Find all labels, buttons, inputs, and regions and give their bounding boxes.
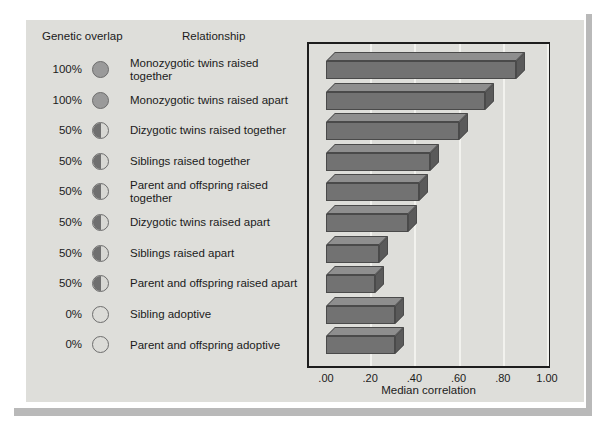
bar-top-face: [326, 205, 417, 214]
bar-top-face: [326, 297, 404, 306]
bar: [326, 297, 404, 324]
bar: [326, 266, 384, 293]
relationship-label: Dizygotic twins raised together: [130, 124, 300, 138]
bar-top-face: [326, 83, 494, 92]
overlap-circle-icon: [92, 92, 109, 109]
relationship-label: Monozygotic twins raised apart: [130, 94, 300, 108]
axis-top-line: [307, 42, 550, 44]
overlap-circle-icon: [92, 306, 109, 323]
figure-card: Genetic overlap Relationship 100%Monozyg…: [8, 6, 586, 408]
bar-front-face: [326, 92, 485, 110]
relationship-label: Parent and offspring raised together: [130, 179, 300, 206]
relationship-label: Dizygotic twins raised apart: [130, 216, 300, 230]
figure-stage: Genetic overlap Relationship 100%Monozyg…: [0, 0, 599, 422]
column-header-genetic-overlap: Genetic overlap: [42, 30, 123, 42]
figure-panel: Genetic overlap Relationship 100%Monozyg…: [26, 20, 584, 402]
axis-y-line: [307, 42, 309, 368]
bar: [326, 205, 417, 232]
genetic-overlap-value: 50%: [38, 247, 82, 259]
overlap-circle-icon: [92, 122, 109, 139]
genetic-overlap-value: 0%: [38, 338, 82, 350]
relationship-label: Monozygotic twins raised together: [130, 57, 300, 84]
overlap-circle-icon: [92, 275, 109, 292]
bar-front-face: [326, 306, 395, 324]
bar-front-face: [326, 275, 375, 293]
bar-top-face: [326, 327, 404, 336]
overlap-circle-icon: [92, 214, 109, 231]
bar: [326, 52, 525, 79]
overlap-circle-icon: [92, 336, 109, 353]
genetic-overlap-value: 50%: [38, 155, 82, 167]
axis-x-line: [307, 366, 550, 368]
column-header-relationship: Relationship: [182, 30, 245, 42]
bar-front-face: [326, 61, 516, 79]
genetic-overlap-value: 50%: [38, 185, 82, 197]
bar-front-face: [326, 183, 419, 201]
bar: [326, 236, 388, 263]
gridline: [547, 44, 549, 366]
bar-front-face: [326, 245, 379, 263]
bar: [326, 83, 494, 110]
bar-top-face: [326, 236, 388, 245]
gridline: [503, 44, 505, 366]
x-axis-label: Median correlation: [307, 384, 550, 396]
overlap-circle-icon: [92, 183, 109, 200]
x-tick-label: .60: [451, 372, 466, 384]
relationship-label: Parent and offspring adoptive: [130, 339, 300, 353]
x-tick-label: .80: [495, 372, 510, 384]
overlap-circle-icon: [92, 245, 109, 262]
x-tick-label: 1.00: [536, 372, 557, 384]
relationship-label: Siblings raised together: [130, 155, 300, 169]
genetic-overlap-value: 0%: [38, 308, 82, 320]
x-tick-label: .20: [363, 372, 378, 384]
bar-front-face: [326, 336, 395, 354]
bar-top-face: [326, 144, 439, 153]
genetic-overlap-value: 50%: [38, 277, 82, 289]
bar-front-face: [326, 153, 430, 171]
overlap-circle-icon: [92, 61, 109, 78]
x-tick-label: .00: [318, 372, 333, 384]
genetic-overlap-value: 100%: [38, 63, 82, 75]
bar-front-face: [326, 122, 459, 140]
genetic-overlap-value: 50%: [38, 124, 82, 136]
plot-area: .00.20.40.60.801.00: [307, 42, 550, 368]
relationship-label: Siblings raised apart: [130, 247, 300, 261]
bar-top-face: [326, 174, 428, 183]
x-tick-label: .40: [407, 372, 422, 384]
bar-top-face: [326, 113, 468, 122]
bar: [326, 174, 428, 201]
relationship-label: Parent and offspring raised apart: [130, 277, 300, 291]
bar: [326, 327, 404, 354]
bar: [326, 144, 439, 171]
bar-top-face: [326, 52, 525, 61]
bar: [326, 113, 468, 140]
overlap-circle-icon: [92, 153, 109, 170]
genetic-overlap-value: 50%: [38, 216, 82, 228]
bar-front-face: [326, 214, 408, 232]
genetic-overlap-value: 100%: [38, 94, 82, 106]
relationship-label: Sibling adoptive: [130, 308, 300, 322]
